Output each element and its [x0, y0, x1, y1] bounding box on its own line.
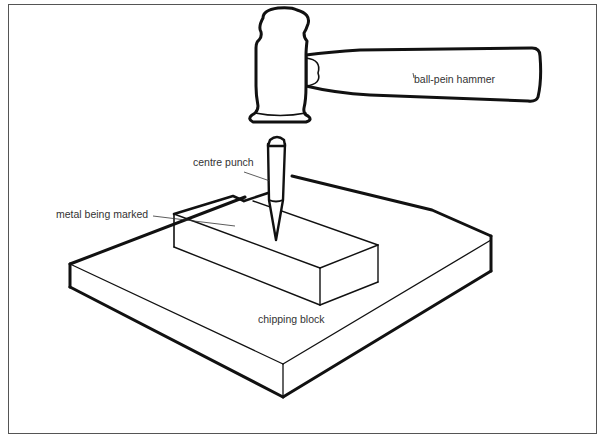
ball-pein-hammer: [250, 8, 541, 122]
centre-punch: [268, 137, 285, 240]
label-metal-being-marked: metal being marked: [56, 209, 148, 220]
label-centre-punch: centre punch: [193, 157, 254, 168]
label-ball-pein-hammer: ball-pein hammer: [414, 74, 495, 85]
label-chipping-block: chipping block: [258, 314, 325, 325]
leader-punch: [244, 172, 270, 181]
